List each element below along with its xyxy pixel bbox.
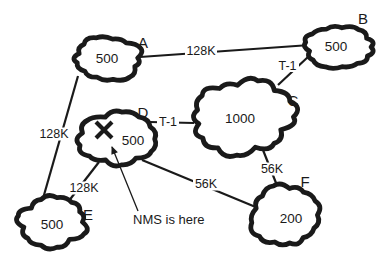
link-label-d-e-text: 128K <box>69 181 99 195</box>
link-label-d-f-text: 56K <box>195 177 218 191</box>
cloud-d-letter: D <box>138 104 149 121</box>
cloud-d-value: 500 <box>122 133 145 148</box>
cloud-e-value: 500 <box>41 217 64 232</box>
cloud-c-letter: C <box>288 92 299 109</box>
cloud-c-value: 1000 <box>225 111 255 126</box>
link-label-b-c-text: T-1 <box>278 59 296 73</box>
link-label-d-c: T-1 <box>157 115 179 129</box>
cloud-b-letter: B <box>358 10 368 27</box>
network-topology-diagram: 128K 128K T-1 T-1 128K 56K 56K A B <box>0 0 386 259</box>
link-label-b-c: T-1 <box>276 59 299 73</box>
cloud-e-letter: E <box>83 206 93 223</box>
cloud-a-value: 500 <box>96 51 119 66</box>
cloud-b-value: 500 <box>325 39 348 54</box>
link-label-c-f-text: 56K <box>261 162 284 176</box>
cloud-a-letter: A <box>138 34 148 51</box>
cloud-f-value: 200 <box>280 211 303 226</box>
link-label-a-b-text: 128K <box>186 44 216 58</box>
link-label-a-e: 128K <box>38 127 70 141</box>
nms-annotation-text: NMS is here <box>133 212 205 227</box>
diagram-canvas: 128K 128K T-1 T-1 128K 56K 56K A B <box>0 0 386 259</box>
link-label-a-e-text: 128K <box>39 127 69 141</box>
link-label-d-f: 56K <box>193 177 219 191</box>
cloud-f-letter: F <box>300 173 309 190</box>
link-label-a-b: 128K <box>185 44 217 58</box>
link-label-d-e: 128K <box>68 181 100 195</box>
link-a-b <box>140 45 310 57</box>
link-label-d-c-text: T-1 <box>159 115 177 129</box>
link-label-c-f: 56K <box>259 162 285 176</box>
